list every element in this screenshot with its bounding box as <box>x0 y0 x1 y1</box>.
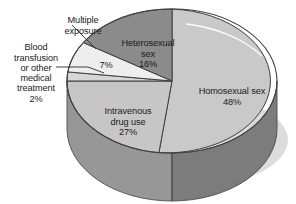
slice-label-blood-transfusion-text: Blood transfusion or other medical treat… <box>14 42 58 93</box>
pie-chart-figure: Multiple exposure Blood transfusion or o… <box>0 0 296 204</box>
slice-label-heterosexual-sex-text: Heterosexual sex <box>122 38 175 58</box>
slice-value-homosexual-sex: 48% <box>186 97 278 107</box>
slice-value-blood-transfusion: 2% <box>2 94 70 104</box>
slice-label-homosexual-sex-text: Homosexual sex <box>199 86 266 96</box>
slice-label-heterosexual-sex: Heterosexual sex 16% <box>116 28 180 79</box>
slice-label-multiple-exposure-text: Multiple exposure <box>65 15 102 35</box>
slice-value-multiple-exposure-text: 7% <box>99 60 112 70</box>
slice-label-intravenous-drug-use-text: Intravenous drug use <box>105 106 152 126</box>
slice-label-homosexual-sex: Homosexual sex 48% <box>186 76 278 117</box>
slice-value-heterosexual-sex: 16% <box>116 59 180 69</box>
slice-label-intravenous-drug-use: Intravenous drug use 27% <box>90 96 166 147</box>
slice-value-multiple-exposure: 7% <box>94 50 118 71</box>
slice-value-intravenous-drug-use: 27% <box>90 127 166 137</box>
slice-label-blood-transfusion: Blood transfusion or other medical treat… <box>2 32 70 114</box>
